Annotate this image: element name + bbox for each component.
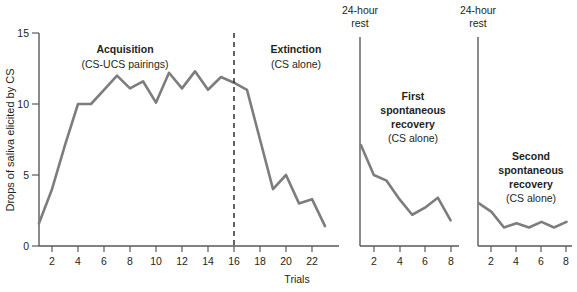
extinction-label: Extinction (271, 43, 322, 55)
y-axis-group: 15 10 5 0 Drops of saliva elicited by CS (4, 27, 39, 252)
panel1-xticklabel-18: 18 (254, 255, 266, 267)
panel2-xticklabels: 2 4 6 8 (371, 255, 454, 267)
acquisition-label: Acquisition (96, 43, 153, 55)
panel1-xticks (52, 246, 312, 252)
panel3-xticklabels: 2 4 6 8 (488, 255, 569, 267)
acquisition-sublabel: (CS-UCS pairings) (82, 58, 169, 70)
panel2-xticklabel-8: 8 (448, 255, 454, 267)
panel3-rest-label: 24-hour rest (460, 4, 497, 29)
panel-acquisition-extinction: 2 4 6 8 10 12 14 16 18 20 22 Trials Acqu… (39, 33, 339, 285)
first-recovery-line2: spontaneous (380, 104, 445, 116)
panel1-xticklabel-20: 20 (280, 255, 292, 267)
panel1-xticklabel-2: 2 (49, 255, 55, 267)
chart-svg: 15 10 5 0 Drops of saliva elicited by CS (0, 0, 577, 292)
y-ticklabel-5: 5 (23, 169, 29, 181)
panel1-xticklabel-8: 8 (127, 255, 133, 267)
data-line-panel2 (361, 145, 451, 220)
first-recovery-sublabel: (CS alone) (388, 132, 438, 144)
panel-second-spontaneous-recovery: 2 4 6 8 24-hour rest Second spontaneous … (460, 4, 572, 267)
annotation-second-recovery: Second spontaneous recovery (CS alone) (498, 150, 563, 204)
panel3-xticklabel-6: 6 (538, 255, 544, 267)
panel1-xticklabel-16: 16 (228, 255, 240, 267)
panel3-xticklabel-4: 4 (513, 255, 519, 267)
panel3-xticklabel-8: 8 (563, 255, 569, 267)
panel3-xticklabel-2: 2 (488, 255, 494, 267)
extinction-sublabel: (CS alone) (271, 58, 321, 70)
pavlovian-conditioning-chart: 15 10 5 0 Drops of saliva elicited by CS (0, 0, 577, 292)
panel2-xticklabel-2: 2 (371, 255, 377, 267)
panel1-xticklabel-22: 22 (306, 255, 318, 267)
annotation-acquisition: Acquisition (CS-UCS pairings) (82, 43, 169, 70)
panel2-rest-line2: rest (351, 17, 369, 29)
panel2-xticklabel-4: 4 (397, 255, 403, 267)
panel1-xticklabel-4: 4 (75, 255, 81, 267)
data-line-panel1 (39, 71, 325, 226)
panel3-rest-line1: 24-hour (460, 4, 497, 16)
x-axis-title: Trials (284, 273, 309, 285)
annotation-first-recovery: First spontaneous recovery (CS alone) (380, 90, 445, 144)
panel2-rest-label: 24-hour rest (342, 4, 379, 29)
panel2-xticklabel-6: 6 (422, 255, 428, 267)
panel1-xticklabel-12: 12 (176, 255, 188, 267)
panel2-xticks (374, 246, 451, 252)
first-recovery-line1: First (402, 90, 425, 102)
panel3-xticks (491, 246, 566, 252)
y-axis-title: Drops of saliva elicited by CS (4, 68, 16, 211)
second-recovery-line2: spontaneous (498, 164, 563, 176)
y-ticklabel-15: 15 (17, 27, 29, 39)
panel1-xticklabel-6: 6 (101, 255, 107, 267)
data-line-panel3 (479, 203, 567, 227)
panel1-xticklabels: 2 4 6 8 10 12 14 16 18 20 22 (49, 255, 318, 267)
panel2-rest-line1: 24-hour (342, 4, 379, 16)
panel1-xticklabel-10: 10 (150, 255, 162, 267)
panel3-rest-line2: rest (469, 17, 487, 29)
panel-first-spontaneous-recovery: 2 4 6 8 24-hour rest First spontaneous r… (342, 4, 459, 267)
second-recovery-line3: recovery (509, 178, 553, 190)
y-ticklabel-10: 10 (17, 98, 29, 110)
y-ticklabel-0: 0 (23, 240, 29, 252)
second-recovery-sublabel: (CS alone) (506, 192, 556, 204)
annotation-extinction: Extinction (CS alone) (271, 43, 322, 70)
first-recovery-line3: recovery (391, 118, 435, 130)
second-recovery-line1: Second (512, 150, 550, 162)
panel1-xticklabel-14: 14 (202, 255, 214, 267)
